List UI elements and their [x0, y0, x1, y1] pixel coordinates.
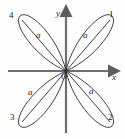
- quadrant-label-3: 3: [10, 113, 15, 122]
- petal-4-radial-label: a: [36, 31, 41, 40]
- rose-curve-figure: 1 2 3 4 a a a a x y O: [0, 0, 125, 139]
- quadrant-label-1: 1: [109, 10, 114, 19]
- quadrant-label-4: 4: [9, 11, 14, 20]
- y-axis-label: y: [56, 9, 60, 18]
- x-axis-label: x: [112, 73, 116, 82]
- origin-label: O: [61, 73, 67, 81]
- figure-canvas: [0, 0, 125, 139]
- petal-4-radius: [22, 20, 66, 71]
- petal-3-radial-label: a: [28, 88, 33, 97]
- petal-1-radial-label: a: [83, 31, 88, 40]
- petal-2-radius: [66, 71, 110, 122]
- petal-1-radius: [66, 20, 110, 71]
- quadrant-label-2: 2: [108, 113, 113, 122]
- petal-2-radial-label: a: [89, 87, 94, 96]
